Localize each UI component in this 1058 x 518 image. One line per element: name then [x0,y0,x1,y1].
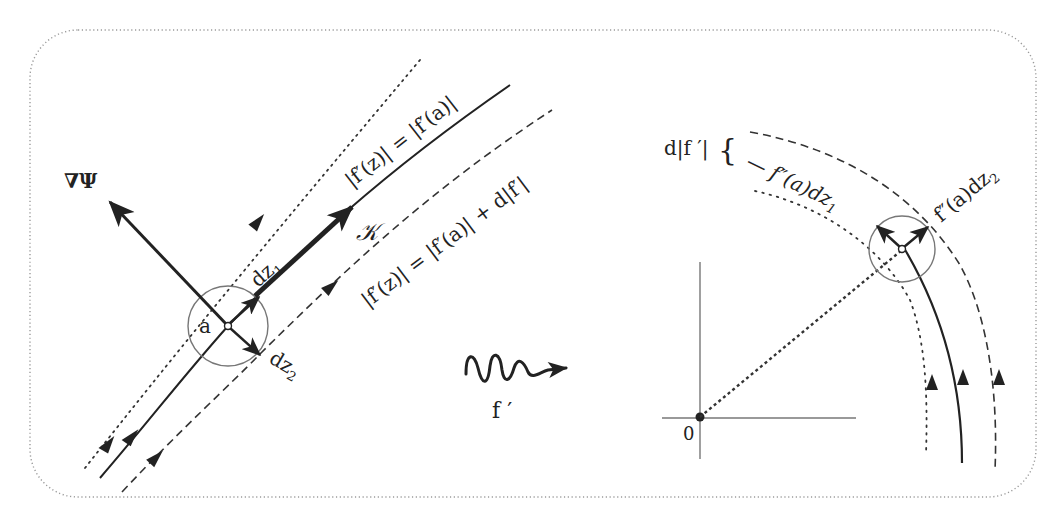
image-dz1-label: — f″(a)dz1 [741,149,843,217]
image-dz2-arrow [904,227,928,247]
dz1-arrow [230,297,259,323]
dz2-arrow [230,328,260,355]
dotted-curve-arrow-icon [248,210,268,231]
mapping-arrow: f ′ [466,355,566,423]
brace-icon: { [718,132,737,167]
brace-label: d|f ′| [664,136,709,161]
right-panel: 0 d|f ′| { — f″(a)dz1 f″(a)dz2 [662,132,1005,470]
dz2-label: dz2 [264,346,305,385]
point-a [225,323,232,330]
solid-level-curve [100,85,510,478]
solid-curve-label: |f′(z)| = |f′(a)| [340,91,461,193]
radial-line [700,250,902,417]
origin-label: 0 [683,423,694,444]
image-dz1-arrow [877,226,900,247]
solid-curve-arrow-icon [122,425,143,447]
dashed-arc-arrow-icon [993,369,1005,385]
image-point [899,246,906,253]
gradient-arrow [110,202,228,326]
dashed-curve-label: |f′(z)| = |f′(a)| + d|f′| [357,171,533,312]
dotted-curve-arrow-icon [98,433,118,455]
image-dz2-label: f″(a)dz2 [929,161,1003,229]
dashed-level-curve [122,110,552,492]
gradient-label: ∇Ψ [64,169,98,193]
point-a-label: a [199,314,211,338]
left-panel: a ∇Ψ 𝒦 dz1 dz2 |f′(z)| = |f′(a)| |f′(z)|… [64,60,552,492]
squiggle-arrow-icon [466,355,566,381]
dotted-arc-arrow-icon [926,374,938,390]
tangent-label: 𝒦 [356,218,386,246]
mapping-label: f ′ [492,398,512,423]
dotted-level-curve [85,60,420,468]
solid-arc-arrow-icon [957,369,969,385]
dotted-image-arc [755,191,927,455]
conformal-map-diagram: a ∇Ψ 𝒦 dz1 dz2 |f′(z)| = |f′(a)| |f′(z)|… [0,0,1058,518]
